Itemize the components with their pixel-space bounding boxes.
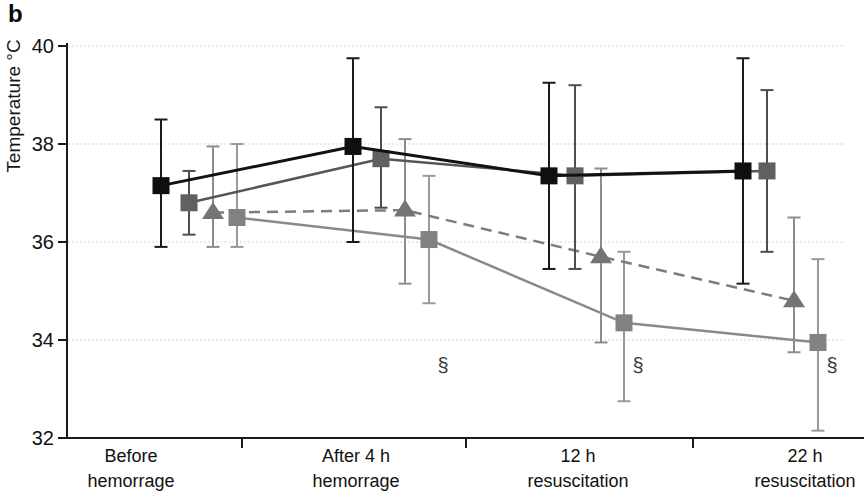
y-tick-label: 36	[32, 231, 54, 253]
category-label-line2: resuscitation	[527, 471, 628, 491]
y-tick-label: 40	[32, 35, 54, 57]
data-point-marker	[735, 162, 752, 179]
category-label-line2: hemorrage	[87, 471, 174, 491]
significance-symbol: §	[632, 354, 643, 376]
category-label-line2: resuscitation	[754, 471, 855, 491]
data-point-marker	[421, 231, 438, 248]
x-axis-category-label: 12 hresuscitation	[527, 446, 628, 491]
series-line	[237, 218, 818, 343]
error-bar	[788, 218, 801, 353]
x-axis-category-label: After 4 hhemorrage	[312, 446, 399, 491]
data-point-marker	[394, 200, 416, 217]
series-darkgray-square	[181, 85, 776, 269]
data-point-marker	[153, 177, 170, 194]
category-label-line2: hemorrage	[312, 471, 399, 491]
error-bar	[231, 144, 244, 247]
data-point-marker	[202, 202, 224, 219]
category-label-line1: 12 h	[560, 446, 595, 466]
category-label-line1: After 4 h	[322, 446, 390, 466]
x-axis-category-label: 22 hresuscitation	[754, 446, 855, 491]
category-label-line1: 22 h	[787, 446, 822, 466]
data-point-marker	[541, 167, 558, 184]
data-point-marker	[616, 314, 633, 331]
y-tick-label: 32	[32, 427, 54, 449]
data-point-marker	[345, 138, 362, 155]
data-point-marker	[759, 162, 776, 179]
data-point-marker	[810, 334, 827, 351]
significance-symbol: §	[437, 354, 448, 376]
x-axis-category-label: Beforehemorrage	[87, 446, 174, 491]
chart-area: 4038363432BeforehemorrageAfter 4 hhemorr…	[0, 0, 864, 503]
data-point-marker	[181, 194, 198, 211]
category-label-line1: Before	[104, 446, 157, 466]
significance-symbol: §	[826, 354, 837, 376]
y-tick-label: 34	[32, 329, 54, 351]
y-tick-label: 38	[32, 133, 54, 155]
